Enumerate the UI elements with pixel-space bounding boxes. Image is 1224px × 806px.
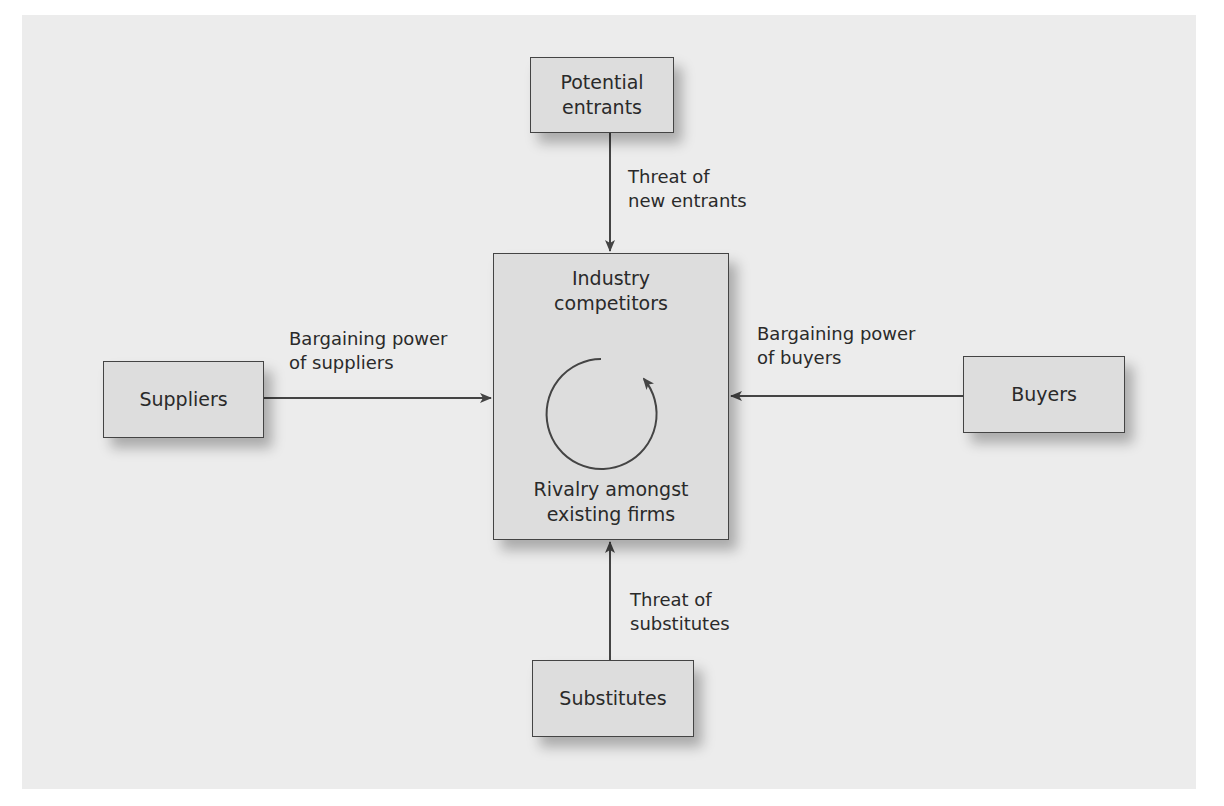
buyers-label: Buyers [1011, 382, 1077, 407]
threat-substitutes-label: Threat of substitutes [630, 588, 730, 636]
supplier-power-label: Bargaining power of suppliers [289, 327, 448, 375]
buyers-box: Buyers [963, 356, 1125, 433]
buyer-power-label: Bargaining power of buyers [757, 322, 916, 370]
substitutes-label: Substitutes [559, 686, 666, 711]
suppliers-box: Suppliers [103, 361, 264, 438]
threat-new-entrants-label: Threat of new entrants [628, 165, 747, 213]
potential-entrants-box: Potential entrants [530, 57, 674, 133]
suppliers-label: Suppliers [139, 387, 227, 412]
substitutes-box: Substitutes [532, 660, 694, 737]
rivalry-label: Rivalry amongst existing firms [494, 477, 728, 527]
potential-entrants-label: Potential entrants [560, 70, 643, 120]
industry-competitors-box: Industry competitors Rivalry amongst exi… [493, 253, 729, 540]
